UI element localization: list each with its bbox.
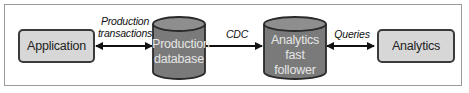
node-application: Application	[18, 29, 95, 63]
node-application-label: Application	[27, 39, 86, 53]
node-production-database: Production database	[152, 16, 206, 80]
edge-label-cdc: CDC	[222, 28, 252, 40]
node-analytics-fast-follower-label-line1: Analytics	[263, 33, 327, 48]
edge-label-line1: Production	[96, 15, 154, 27]
node-production-database-label-line1: Production	[152, 37, 206, 52]
edge-label-queries: Queries	[330, 28, 374, 40]
edge-label-production-transactions: Production transactions	[96, 15, 154, 39]
node-analytics: Analytics	[377, 29, 455, 63]
node-analytics-label: Analytics	[392, 39, 440, 53]
edge-label-text: Queries	[334, 28, 369, 40]
edge-label-line2: transactions	[96, 27, 154, 39]
node-production-database-label-line2: database	[152, 52, 206, 67]
node-analytics-fast-follower-label-line2: fast	[263, 48, 327, 63]
node-analytics-fast-follower-label-line3: follower	[263, 63, 327, 78]
edge-label-text: CDC	[226, 28, 248, 40]
node-analytics-fast-follower: Analytics fast follower	[263, 16, 327, 80]
